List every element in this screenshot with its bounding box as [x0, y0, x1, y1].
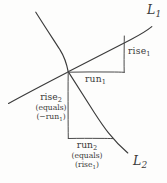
label-line-l1: L1 [147, 4, 161, 19]
label-run2-block: run2 (equals) (rise1) [62, 140, 112, 169]
label-run1: run1 [85, 74, 106, 86]
label-rise1: rise1 [128, 46, 151, 58]
label-line-l2: L2 [133, 155, 147, 170]
geometry-sketch-figure: L1 L2 rise1 run1 rise2 (equals) (−run1) … [0, 0, 167, 183]
line-l2 [36, 12, 128, 153]
label-neg-run1: (−run1) [29, 113, 73, 122]
label-rise1-ref: (rise1) [62, 161, 112, 170]
label-rise2-block: rise2 (equals) (−run1) [29, 92, 73, 121]
